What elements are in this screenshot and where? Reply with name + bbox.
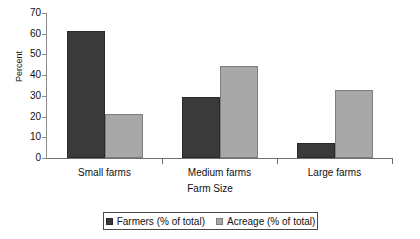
plot-area — [47, 13, 392, 158]
legend-swatch-icon-farmers — [106, 218, 113, 225]
bar-chart: Percent 010203040506070 Small farmsMediu… — [0, 0, 420, 239]
y-axis-tick-labels: 010203040506070 — [0, 0, 41, 239]
bar-large-farms-farmers — [297, 143, 335, 158]
legend-label-farmers: Farmers (% of total) — [117, 216, 205, 227]
y-axis-tick-label: 0 — [5, 153, 41, 163]
x-axis-tick — [162, 159, 163, 164]
bar-small-farms-acreage — [105, 114, 143, 158]
x-axis-line — [46, 158, 393, 159]
y-axis-tick-label: 10 — [5, 132, 41, 142]
bar-medium-farms-farmers — [182, 97, 220, 158]
x-axis-category-label: Medium farms — [162, 167, 277, 178]
y-axis-tick — [42, 158, 47, 159]
legend-item-farmers: Farmers (% of total) — [106, 216, 205, 227]
bar-small-farms-farmers — [67, 31, 105, 158]
legend-label-acreage: Acreage (% of total) — [227, 216, 315, 227]
y-axis-tick-label: 70 — [5, 8, 41, 18]
x-axis-tick — [392, 159, 393, 164]
legend-item-acreage: Acreage (% of total) — [216, 216, 315, 227]
y-axis-tick-label: 60 — [5, 29, 41, 39]
bar-large-farms-acreage — [335, 90, 373, 158]
x-axis-category-label: Large farms — [277, 167, 392, 178]
legend-swatch-icon-acreage — [216, 218, 223, 225]
x-axis-tick — [277, 159, 278, 164]
bar-medium-farms-acreage — [220, 66, 258, 158]
chart-legend: Farmers (% of total) Acreage (% of total… — [103, 212, 318, 230]
x-axis-title: Farm Size — [0, 183, 420, 194]
x-axis-category-label: Small farms — [47, 167, 162, 178]
y-axis-tick-label: 20 — [5, 112, 41, 122]
y-axis-tick-label: 40 — [5, 70, 41, 80]
y-axis-tick-label: 50 — [5, 49, 41, 59]
y-axis-tick-label: 30 — [5, 91, 41, 101]
